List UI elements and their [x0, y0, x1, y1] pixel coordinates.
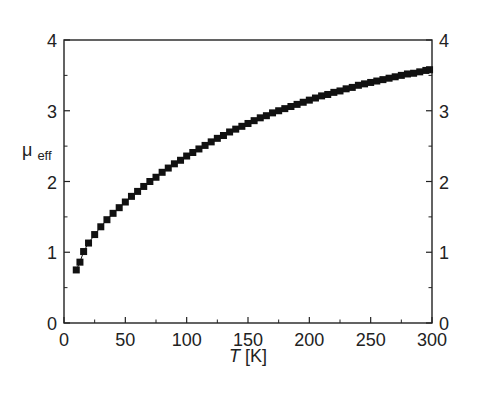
x-tick-label: 0: [59, 330, 69, 350]
chart: 050100150200250300 01234 01234 T [K] μ e…: [0, 0, 477, 394]
x-tick-label: 100: [172, 330, 202, 350]
data-point-marker: [226, 128, 233, 135]
data-point-marker: [294, 101, 301, 108]
data-point-marker: [367, 79, 374, 86]
data-point-marker: [337, 87, 344, 94]
y-axis-right-ticks: 01234: [426, 31, 449, 334]
data-point-marker: [343, 85, 350, 92]
data-point-marker: [146, 178, 153, 185]
data-point-marker: [177, 157, 184, 164]
data-point-marker: [76, 259, 83, 266]
data-point-marker: [159, 169, 166, 176]
data-point-marker: [324, 91, 331, 98]
x-tick-label: 200: [294, 330, 324, 350]
data-point-marker: [202, 142, 209, 149]
data-point-marker: [281, 105, 288, 112]
data-point-marker: [85, 240, 92, 247]
data-point-marker: [410, 70, 417, 77]
data-point-marker: [318, 92, 325, 99]
x-tick-label: 250: [356, 330, 386, 350]
data-point-marker: [398, 72, 405, 79]
y-tick-label-left: 4: [47, 31, 57, 51]
data-point-marker: [171, 160, 178, 167]
data-point-marker: [208, 138, 215, 145]
data-point-marker: [373, 78, 380, 85]
data-point-marker: [306, 97, 313, 104]
data-point-marker: [238, 123, 245, 130]
y-tick-label-left: 0: [47, 314, 57, 334]
y-tick-label-right: 4: [439, 31, 449, 51]
data-point-marker: [183, 153, 190, 160]
data-point-marker: [134, 188, 141, 195]
data-point-marker: [300, 99, 307, 106]
data-point-marker: [122, 199, 129, 206]
data-point-marker: [220, 132, 227, 139]
data-point-marker: [349, 84, 356, 91]
data-point-marker: [330, 89, 337, 96]
data-point-marker: [97, 223, 104, 230]
y-axis-left-ticks: 01234: [47, 31, 70, 334]
y-axis-title: μ eff: [22, 140, 52, 163]
data-point-marker: [263, 112, 270, 119]
data-point-marker: [153, 174, 160, 181]
data-point-marker: [80, 248, 87, 255]
y-tick-label-right: 1: [439, 243, 449, 263]
y-tick-label-right: 2: [439, 173, 449, 193]
data-point-marker: [287, 103, 294, 110]
data-point-marker: [189, 149, 196, 156]
data-point-marker: [245, 120, 252, 127]
data-point-marker: [392, 73, 399, 80]
data-point-marker: [269, 109, 276, 116]
data-point-marker: [110, 210, 117, 217]
data-point-marker: [232, 126, 239, 133]
y-axis-title-symbol: μ: [22, 140, 32, 160]
data-point-marker: [140, 183, 147, 190]
data-point-marker: [257, 114, 264, 121]
x-axis-title-variable: T: [229, 346, 242, 366]
y-tick-label-left: 2: [47, 173, 57, 193]
x-tick-label: 50: [115, 330, 135, 350]
y-tick-label-right: 0: [439, 314, 449, 334]
data-point-marker: [312, 95, 319, 102]
data-point-marker: [386, 75, 393, 82]
data-point-marker: [214, 135, 221, 142]
y-tick-label-right: 3: [439, 102, 449, 122]
data-point-marker: [355, 82, 362, 89]
data-point-marker: [426, 66, 433, 73]
data-point-marker: [128, 193, 135, 200]
data-point-marker: [195, 145, 202, 152]
series-line: [76, 70, 429, 270]
data-point-marker: [251, 117, 258, 124]
data-point-marker: [73, 266, 80, 273]
data-point-marker: [361, 80, 368, 87]
y-tick-label-left: 1: [47, 243, 57, 263]
data-point-marker: [165, 165, 172, 172]
data-point-marker: [116, 204, 123, 211]
data-series: [73, 66, 433, 273]
data-point-marker: [103, 216, 110, 223]
y-tick-label-left: 3: [47, 102, 57, 122]
data-point-marker: [91, 231, 98, 238]
data-point-marker: [416, 68, 423, 75]
x-axis-title-unit-text: [K]: [245, 346, 267, 366]
data-point-marker: [379, 76, 386, 83]
x-axis-title: T [K]: [229, 346, 267, 366]
data-point-marker: [275, 107, 282, 114]
data-point-marker: [404, 70, 411, 77]
y-axis-title-subscript: eff: [37, 148, 52, 163]
